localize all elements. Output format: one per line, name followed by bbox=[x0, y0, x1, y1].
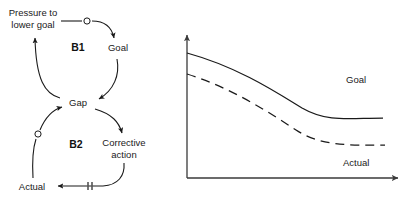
node-corrective-line2: action bbox=[111, 149, 136, 160]
node-corrective-line1: Corrective bbox=[102, 137, 145, 148]
loop-label-b1: B1 bbox=[71, 41, 85, 53]
node-gap: Gap bbox=[69, 97, 87, 108]
link-goal-to-gap bbox=[99, 59, 118, 99]
polarity-negative-icon-pressure-goal bbox=[84, 18, 90, 24]
link-pressure-to-goal-arc bbox=[92, 21, 114, 38]
chart-series-actual bbox=[187, 74, 385, 145]
chart-series-goal bbox=[187, 53, 383, 119]
chart-legend-goal: Goal bbox=[346, 74, 366, 85]
loop-label-b2: B2 bbox=[69, 138, 83, 150]
node-pressure-line2: lower goal bbox=[11, 19, 54, 30]
link-actual-to-gap-lower bbox=[33, 139, 36, 178]
link-actual-to-gap-arc bbox=[40, 107, 62, 130]
node-pressure-line1: Pressure to bbox=[9, 7, 58, 18]
causal-loop-diagram: Pressure to lower goal Goal Gap Correcti… bbox=[0, 0, 180, 200]
polarity-negative-icon-actual-gap bbox=[35, 131, 41, 137]
chart-legend-actual: Actual bbox=[343, 157, 369, 168]
link-gap-to-corrective bbox=[95, 109, 122, 133]
node-actual: Actual bbox=[19, 181, 45, 192]
link-gap-to-pressure bbox=[35, 38, 60, 98]
figure-root: Pressure to lower goal Goal Gap Correcti… bbox=[0, 0, 412, 200]
node-goal: Goal bbox=[108, 42, 128, 53]
behavior-over-time-chart: Goal Actual bbox=[180, 0, 412, 200]
link-corrective-to-actual bbox=[58, 163, 124, 186]
